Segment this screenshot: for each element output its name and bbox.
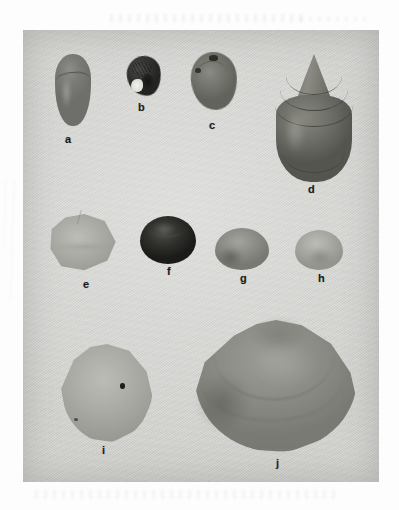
specimen-g-shadow bbox=[218, 247, 243, 266]
specimen-g bbox=[215, 228, 269, 270]
specimen-c bbox=[191, 52, 237, 110]
scan-noise-left bbox=[4, 180, 18, 300]
specimen-j bbox=[195, 320, 357, 452]
specimen-label-b: b bbox=[138, 102, 145, 113]
page-canvas: a b c d bbox=[0, 0, 399, 510]
specimen-label-f: f bbox=[167, 266, 171, 277]
specimen-j-shadow bbox=[195, 373, 250, 431]
specimen-label-d: d bbox=[308, 184, 315, 195]
specimen-c-apex-mark bbox=[209, 55, 218, 60]
scan-noise-bottom bbox=[35, 490, 335, 499]
specimen-label-h: h bbox=[318, 273, 325, 284]
specimen-i-dark-speck bbox=[120, 383, 125, 389]
specimen-label-i: i bbox=[102, 445, 105, 456]
specimen-j-highlight bbox=[253, 341, 318, 389]
specimen-h bbox=[295, 230, 343, 270]
specimen-e bbox=[49, 214, 117, 272]
specimen-f-highlight bbox=[153, 222, 175, 235]
specimen-label-e: e bbox=[83, 279, 89, 290]
specimen-h-shadow bbox=[307, 248, 333, 266]
scan-noise-top bbox=[110, 14, 305, 22]
specimen-label-a: a bbox=[65, 134, 71, 145]
scan-noise-top-right bbox=[300, 16, 370, 22]
specimen-label-g: g bbox=[240, 273, 247, 284]
specimen-b-aperture-dark bbox=[142, 74, 154, 89]
specimen-a bbox=[55, 54, 91, 126]
specimen-label-j: j bbox=[276, 458, 279, 469]
specimen-a-highlight bbox=[61, 76, 72, 109]
specimen-e-shadow bbox=[53, 244, 111, 271]
specimen-c-side-mark bbox=[195, 68, 201, 74]
specimen-d-highlight bbox=[284, 110, 305, 154]
specimen-b-aperture-white bbox=[131, 79, 143, 92]
specimen-d bbox=[273, 54, 355, 182]
specimen-b bbox=[127, 56, 161, 96]
specimen-label-c: c bbox=[209, 120, 215, 131]
specimen-i bbox=[61, 344, 153, 442]
specimen-f bbox=[140, 216, 196, 264]
specimen-plate: a b c d bbox=[23, 30, 379, 482]
